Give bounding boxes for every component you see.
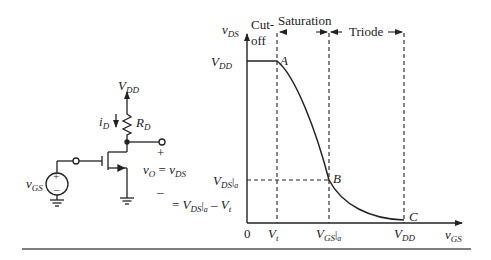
region-cutoff-label: Cut- (251, 17, 274, 32)
output-equation: vO = vDS (143, 162, 186, 179)
source-label: vGS (26, 176, 43, 193)
figure: VDD iD RD + – vGS + vO = vDS – = VDS|a –… (0, 0, 491, 260)
ground-icon (50, 200, 64, 206)
resistor-icon (123, 110, 131, 142)
vdsa-minus-vt-equation: = VDS|a – Vt (172, 197, 232, 214)
x-axis-label: vGS (445, 227, 462, 244)
region-cutoff-label-2: off (251, 33, 267, 48)
ground-icon (120, 198, 134, 204)
x-tick-vt: Vt (268, 226, 279, 243)
gate-terminal (73, 158, 79, 164)
region-triode-label: Triode (349, 24, 383, 39)
x-tick-vgsa: VGS|a (316, 226, 341, 243)
origin-label: 0 (244, 226, 251, 241)
current-label: iD (99, 114, 110, 131)
circuit (46, 92, 165, 206)
mosfet-icon (102, 152, 127, 198)
source-minus: – (53, 183, 60, 195)
resistor-label: RD (135, 115, 151, 132)
region-saturation-label: Saturation (278, 13, 332, 28)
y-tick-vdsa: VDS|a (213, 173, 238, 190)
supply-label: VDD (118, 78, 139, 95)
source-plus: + (53, 170, 59, 182)
x-tick-vdd: VDD (394, 226, 415, 243)
output-plus: + (157, 145, 164, 160)
transfer-curve (247, 61, 404, 220)
y-axis-label: vDS (222, 22, 239, 39)
point-b-label: B (333, 171, 341, 186)
point-c-label: C (409, 209, 418, 224)
output-minus: – (156, 184, 164, 199)
y-tick-vdd: VDD (211, 54, 232, 71)
point-a-label: A (279, 53, 288, 68)
